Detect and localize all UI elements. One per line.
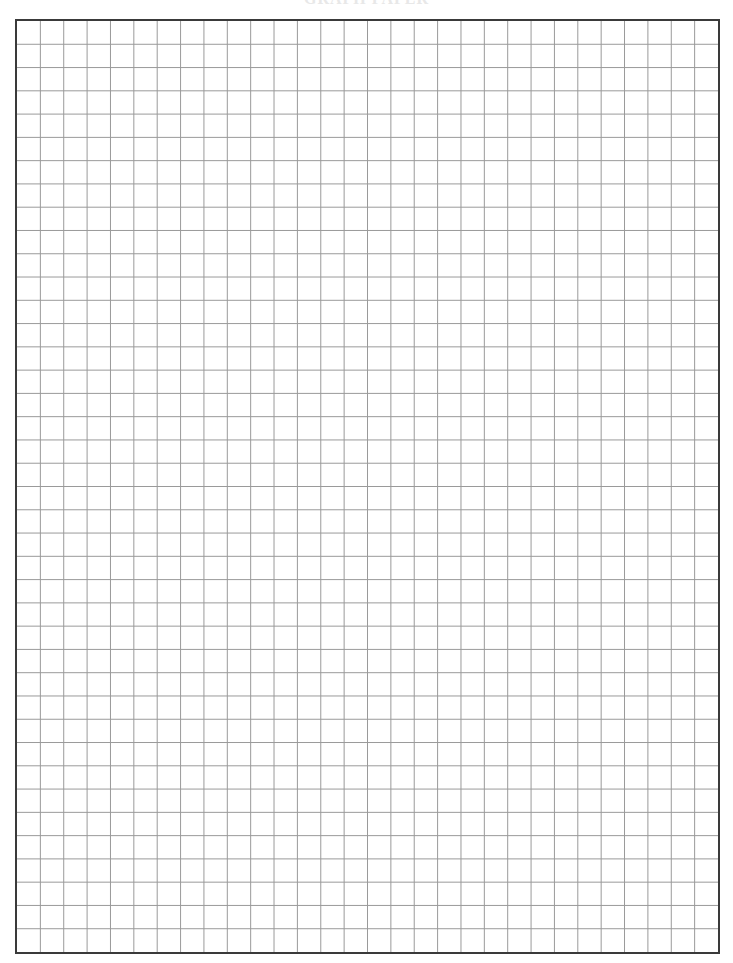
page-title: GRAPH PAPER [0, 0, 733, 8]
graph-paper-grid [15, 19, 720, 954]
grid-lines [17, 21, 718, 952]
